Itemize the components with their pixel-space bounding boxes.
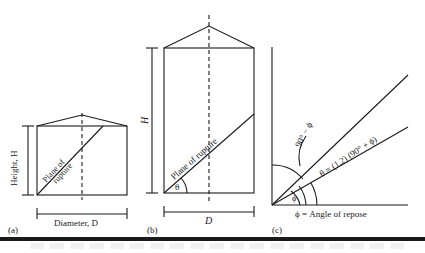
silo-b-plane-label: Plane of rupture — [169, 136, 219, 182]
silo-b-diameter-label: D — [204, 215, 213, 226]
phi-angle-label: ϕ — [292, 194, 296, 203]
panel-b-tall-silo — [146, 15, 254, 217]
panel-b-tag: (b) — [147, 225, 158, 235]
phi-arc — [311, 183, 317, 205]
angle-of-repose-label: ϕ = Angle of repose — [295, 209, 367, 219]
complement-angle-label: 90° − ϕ — [293, 120, 315, 149]
panel-c-angle-construction — [272, 47, 408, 205]
silo-b-height-label: H — [139, 116, 150, 125]
bleed-through-text — [30, 243, 410, 249]
complement-arc — [272, 165, 303, 179]
silo-a-height-label: Height, H — [9, 150, 19, 186]
panel-a-squat-silo — [22, 113, 127, 219]
silo-b-theta-arc — [181, 178, 187, 193]
panel-a-tag: (a) — [8, 225, 18, 235]
rupture-line — [272, 75, 408, 205]
theta-formula-label: θ = (1,2) (90° + ϕ) — [318, 134, 379, 178]
silo-a-diameter-label: Diameter, D — [54, 218, 99, 228]
silo-b-theta-label: θ — [175, 182, 179, 192]
panel-c-tag: (c) — [272, 225, 282, 235]
bottom-rule — [0, 237, 425, 241]
silo-rupture-diagram: Height, H Plane of rupture Diameter, D (… — [0, 0, 425, 253]
